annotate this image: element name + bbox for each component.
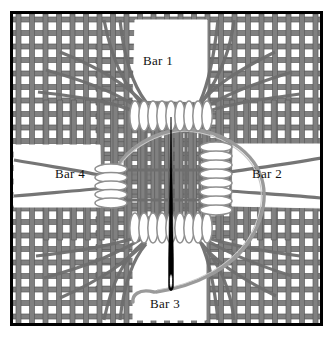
bar-label-4: Bar 4 <box>55 166 85 182</box>
bar-label-1: Bar 1 <box>143 53 173 69</box>
needle-eye <box>169 274 172 288</box>
figure-canvas <box>0 0 333 340</box>
bar-label-3: Bar 3 <box>150 296 180 312</box>
bar-label-2: Bar 2 <box>252 166 282 182</box>
coil-suture-left <box>95 164 127 208</box>
mesh-suture-figure: Bar 1 Bar 2 Bar 3 Bar 4 <box>0 0 333 340</box>
